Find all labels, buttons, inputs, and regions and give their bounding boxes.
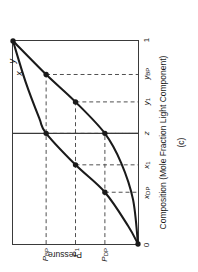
curve-label-y: y <box>7 59 17 64</box>
x-tick-x0: 0 <box>143 243 151 247</box>
data-point-y-dp <box>102 131 107 136</box>
x-tick-ybp: yBP <box>143 68 151 80</box>
figure-caption: (c) <box>176 40 186 245</box>
data-point-y-bp <box>43 72 48 77</box>
data-point-x-p1 <box>73 162 78 167</box>
data-point-x-bp <box>43 131 48 136</box>
data-point-top-vertex <box>10 38 15 43</box>
plot-area <box>12 40 139 245</box>
data-point-x-dp <box>102 190 107 195</box>
plot-svg <box>13 41 138 244</box>
data-point-y-p1 <box>73 99 78 104</box>
x-tick-y1: y1 <box>143 98 151 105</box>
x-tick-xdp: xDP <box>143 187 151 199</box>
phase-diagram-figure: 0xDPx1zy1yBP1 PDPP1PBP xy Composition (M… <box>0 0 198 272</box>
y-axis-title: Pressure <box>20 250 110 260</box>
x-tick-x1end: 1 <box>143 38 151 42</box>
x-tick-x1: x1 <box>143 161 151 168</box>
curve-label-x: x <box>14 71 24 76</box>
x-tick-z: z <box>143 131 151 135</box>
figure-rotator: 0xDPx1zy1yBP1 PDPP1PBP xy Composition (M… <box>0 0 198 272</box>
data-point-bottom-vertex <box>135 241 140 246</box>
x-axis-title: Composition (Mole Fraction Light Compone… <box>158 40 168 245</box>
